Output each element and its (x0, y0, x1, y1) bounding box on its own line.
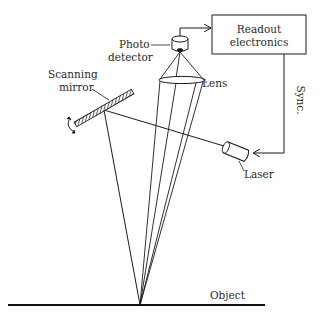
photo-detector (172, 36, 188, 52)
laser (221, 141, 250, 162)
laser-label: Laser (244, 168, 275, 180)
laser-beam (104, 110, 224, 305)
scanning-mirror (74, 89, 134, 127)
readout-label-line1: Readout (237, 23, 282, 35)
scanning-mirror-label-line2: mirror (59, 81, 95, 93)
sync-label: Sync. (295, 85, 307, 114)
photo-detector-label-line2: detector (108, 51, 154, 63)
lens (159, 76, 205, 83)
readout-label-line2: electronics (230, 36, 289, 48)
photo-detector-label-line1: Photo (119, 38, 150, 50)
detector-to-readout-arrow (180, 28, 211, 36)
reflected-rays (140, 81, 203, 305)
scanning-mirror-pointer (92, 89, 109, 100)
readout-electronics-box: Readout electronics (212, 15, 306, 54)
rotation-arrow-icon (67, 117, 75, 133)
scanning-mirror-label-line1: Scanning (48, 68, 98, 80)
sync-line (253, 54, 284, 153)
focused-rays (160, 52, 203, 79)
lens-label: Lens (202, 77, 227, 89)
object-label: Object (210, 289, 246, 301)
diagram-canvas: Lens Photo detector Readout electronics … (0, 0, 321, 322)
